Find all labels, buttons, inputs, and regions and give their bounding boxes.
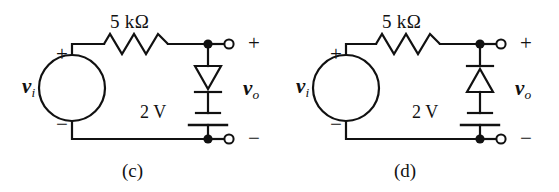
terminal-bottom-d bbox=[496, 134, 505, 143]
junction-dot-bottom-c bbox=[203, 134, 212, 143]
resistor-label-d: 5 kΩ bbox=[382, 12, 421, 31]
battery-label-d: 2 V bbox=[412, 103, 438, 121]
source-label-c: vi bbox=[22, 76, 35, 97]
wire-source-to-resistor-c bbox=[72, 44, 104, 55]
source-plus-sign-c: + bbox=[56, 44, 68, 65]
resistor-zigzag-d bbox=[376, 34, 440, 54]
diode-triangle-d bbox=[467, 69, 493, 92]
junction-dot-top-d bbox=[475, 39, 484, 48]
source-plus-sign-d: + bbox=[330, 44, 342, 65]
source-minus-sign-c: − bbox=[56, 114, 68, 135]
circuit-panel-c: 5 kΩ vi + − 2 V vo + − (c) bbox=[0, 0, 279, 192]
output-minus-sign-d: − bbox=[520, 128, 532, 149]
source-circle-d bbox=[313, 55, 379, 121]
source-circle-c bbox=[39, 55, 105, 121]
wire-source-to-resistor-d bbox=[346, 44, 376, 55]
source-minus-sign-d: − bbox=[330, 114, 342, 135]
wire-source-to-rail-d bbox=[346, 121, 480, 139]
source-label-d: vi bbox=[296, 76, 309, 97]
terminal-top-c bbox=[224, 39, 233, 48]
terminal-top-d bbox=[496, 39, 505, 48]
panel-caption-d: (d) bbox=[394, 161, 416, 180]
circuit-panel-d: 5 kΩ vi + − 2 V vo + − (d) bbox=[280, 0, 559, 192]
battery-label-c: 2 V bbox=[140, 103, 166, 121]
output-minus-sign-c: − bbox=[248, 128, 260, 149]
output-label-c: vo bbox=[243, 78, 259, 99]
junction-dot-bottom-d bbox=[475, 134, 484, 143]
wire-source-to-rail-c bbox=[72, 121, 208, 139]
resistor-label-c: 5 kΩ bbox=[110, 12, 149, 31]
output-label-d: vo bbox=[515, 78, 531, 99]
output-plus-sign-c: + bbox=[248, 33, 260, 54]
panel-caption-c: (c) bbox=[122, 161, 143, 180]
junction-dot-top-c bbox=[203, 39, 212, 48]
resistor-zigzag-c bbox=[104, 34, 168, 54]
output-plus-sign-d: + bbox=[520, 33, 532, 54]
circuit-figure: 5 kΩ vi + − 2 V vo + − (c) bbox=[0, 0, 559, 192]
diode-triangle-c bbox=[195, 66, 221, 89]
terminal-bottom-c bbox=[224, 134, 233, 143]
